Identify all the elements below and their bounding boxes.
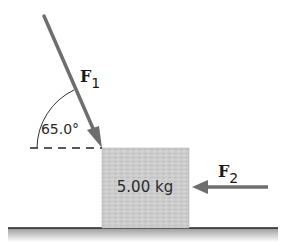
angle-label: 65.0° <box>41 121 79 137</box>
force1-arrowhead-icon <box>87 126 102 148</box>
ground-shading <box>8 228 278 242</box>
mass-label: 5.00 kg <box>117 178 173 196</box>
force2-arrowhead-icon <box>192 180 208 194</box>
angle-arc <box>37 90 74 148</box>
force1-label: F1 <box>80 67 100 91</box>
force2-label: F2 <box>218 162 238 186</box>
block: 5.00 kg <box>102 148 189 228</box>
ground <box>8 228 278 242</box>
free-body-diagram: 5.00 kg 65.0° F1 F2 <box>0 0 289 246</box>
